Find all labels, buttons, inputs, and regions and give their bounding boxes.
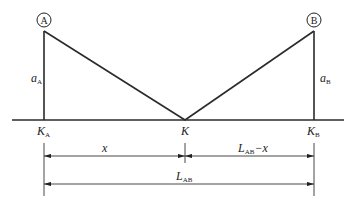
point-B-marker: B xyxy=(307,13,321,27)
height-label-a-A: aA xyxy=(31,71,42,86)
ground-label-K-A: KA xyxy=(36,124,50,139)
height-label-a-B: aB xyxy=(320,71,331,86)
point-A-label: A xyxy=(40,15,48,26)
ground-label-K-B: KB xyxy=(306,124,320,139)
ray-B-K xyxy=(185,31,314,120)
dimension-label-L-minus-x: LAB−x xyxy=(237,141,269,156)
two-station-geometry-diagram: A B aA aB KA K KB x LAB−x LAB xyxy=(0,0,352,209)
point-B-label: B xyxy=(311,15,318,26)
point-A-marker: A xyxy=(37,13,51,27)
ray-A-K xyxy=(44,31,185,120)
dimension-label-x: x xyxy=(101,141,108,155)
ground-label-K: K xyxy=(180,124,190,138)
dimension-label-L-AB: LAB xyxy=(175,169,193,184)
